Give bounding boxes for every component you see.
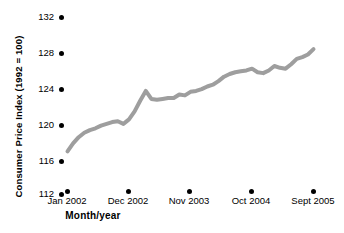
y-axis-tick-dot-1 [59,159,64,164]
y-axis-tick-label-3: 124 [38,84,54,94]
cpi-data-line [68,49,314,151]
cpi-line-chart: Consumer Price Index (1992 = 100) 132 12… [0,0,344,233]
y-axis-tick-5: 132 [22,11,64,23]
y-axis-tick-dot-3 [59,87,64,92]
y-axis-tick-4: 128 [22,47,64,59]
x-axis-tick-dot-2 [187,189,192,194]
y-axis-tick-dot-4 [59,51,64,56]
y-axis-tick-1: 116 [22,155,64,167]
x-axis-tick-label-0: Jan 2002 [32,196,102,206]
y-axis-tick-label-2: 120 [38,120,54,130]
x-axis-tick-dot-0 [65,189,70,194]
y-axis-tick-label-5: 132 [38,12,54,22]
y-axis-tick-label-4: 128 [38,48,54,58]
x-axis-tick-dot-4 [311,189,316,194]
x-axis-title: Month/year [38,210,148,221]
x-axis-tick-label-4: Sept 2005 [278,196,344,206]
y-axis-tick-dot-2 [59,123,64,128]
x-axis-tick-dot-3 [249,189,254,194]
y-axis-tick-label-1: 116 [39,156,54,166]
x-axis-tick-label-2: Nov 2003 [154,196,224,206]
y-axis-tick-3: 124 [22,83,64,95]
x-axis-tick-dot-1 [126,189,131,194]
y-axis-tick-2: 120 [22,119,64,131]
y-axis-tick-dot-5 [59,15,64,20]
x-axis-tick-label-3: Oct 2004 [216,196,286,206]
x-axis-tick-label-1: Dec 2002 [93,196,163,206]
